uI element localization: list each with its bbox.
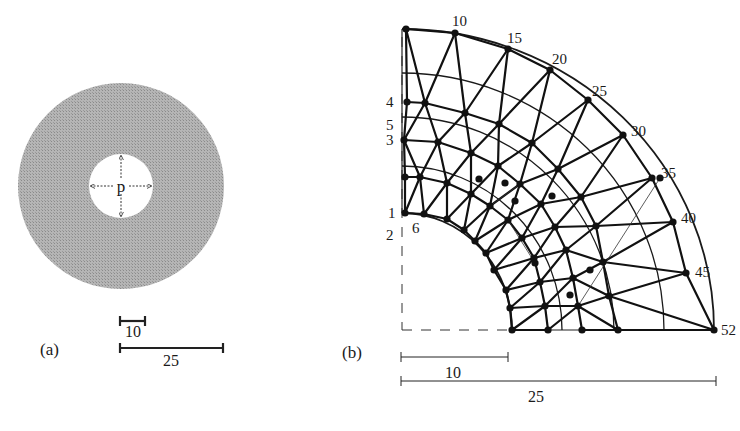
panel-a-label: (a) <box>40 340 59 359</box>
node-number: 5 <box>386 117 394 133</box>
mesh-node <box>443 179 450 186</box>
mesh-node <box>546 66 553 73</box>
mesh-node <box>566 291 573 298</box>
mesh-node <box>421 99 428 106</box>
node-number: 4 <box>386 94 394 110</box>
mesh-node <box>482 249 489 256</box>
mesh-node <box>710 326 717 333</box>
mesh-node <box>401 173 408 180</box>
mesh-node <box>569 274 576 281</box>
node-number: 52 <box>721 322 736 338</box>
mesh-node <box>528 139 535 146</box>
scale-bar-label: 10 <box>445 364 461 381</box>
mesh-node <box>516 180 523 187</box>
pressure-label: p <box>117 177 126 196</box>
node-number: 1 <box>388 205 396 221</box>
mesh-node <box>586 266 593 273</box>
mesh-node <box>584 96 591 103</box>
mesh-node <box>467 190 474 197</box>
node-number: 6 <box>412 220 420 236</box>
mesh-node <box>486 202 493 209</box>
node-number: 25 <box>592 83 607 99</box>
mesh-node <box>614 326 621 333</box>
mesh-node <box>548 192 555 199</box>
mesh-node <box>416 173 423 180</box>
mesh-node <box>460 226 467 233</box>
mesh-node <box>467 149 474 156</box>
mesh-node <box>494 162 501 169</box>
scale-bar-label: 25 <box>528 388 544 405</box>
node-number: 30 <box>631 123 646 139</box>
mesh-node <box>518 234 525 241</box>
panel-a-annulus: p 1025 (a) <box>18 83 224 369</box>
mesh-node <box>504 216 511 223</box>
mesh-node <box>420 210 427 217</box>
mesh-node <box>551 223 558 230</box>
mesh-node <box>541 302 548 309</box>
panel-b-label: (b) <box>342 343 362 362</box>
mesh-node <box>475 175 482 182</box>
mesh-node <box>562 246 569 253</box>
mesh-node <box>508 326 515 333</box>
mesh-node <box>574 302 581 309</box>
mesh-node <box>577 193 584 200</box>
mesh-node <box>495 120 502 127</box>
node-number: 20 <box>552 51 567 67</box>
scale-bar-label: 25 <box>163 352 179 369</box>
mesh-node <box>504 45 511 52</box>
mesh-node <box>501 179 508 186</box>
mesh-node <box>400 136 407 143</box>
node-number: 35 <box>661 165 676 181</box>
panel-b-scale-bars: 1025 <box>401 352 716 405</box>
panel-a-scale-bars: 1025 <box>120 316 223 369</box>
mesh-node <box>544 326 551 333</box>
mesh-node <box>605 292 612 299</box>
mesh-node <box>669 218 676 225</box>
mesh-node <box>531 259 538 266</box>
mesh-node <box>506 304 513 311</box>
scale-bar-label: 10 <box>125 323 141 340</box>
mesh-node <box>592 222 599 229</box>
node-number: 3 <box>386 132 394 148</box>
mesh-node <box>401 209 408 216</box>
node-number: 10 <box>452 13 467 29</box>
node-number: 40 <box>681 210 696 226</box>
mesh-node <box>451 29 458 36</box>
mesh-node <box>402 25 409 32</box>
mesh-node <box>682 269 689 276</box>
figure-canvas: p 1025 (a) 101520253035404552453126 1025… <box>0 0 740 431</box>
mesh-node <box>536 278 543 285</box>
mesh-node <box>537 200 544 207</box>
mesh-node <box>578 326 585 333</box>
mesh-node <box>502 286 509 293</box>
mesh-node <box>490 266 497 273</box>
node-number: 45 <box>695 264 710 280</box>
mesh-node <box>648 174 655 181</box>
mesh-node <box>443 215 450 222</box>
mesh-node <box>403 98 410 105</box>
mesh-node <box>619 131 626 138</box>
mesh-node <box>434 138 441 145</box>
mesh-node <box>599 258 606 265</box>
mesh-node <box>461 109 468 116</box>
mesh-node <box>554 165 561 172</box>
node-number: 15 <box>507 30 522 46</box>
panel-b-mesh: 101520253035404552453126 1025 (b) <box>342 13 736 405</box>
node-number: 2 <box>386 227 394 243</box>
mesh-node <box>471 237 478 244</box>
mesh-node <box>511 197 518 204</box>
